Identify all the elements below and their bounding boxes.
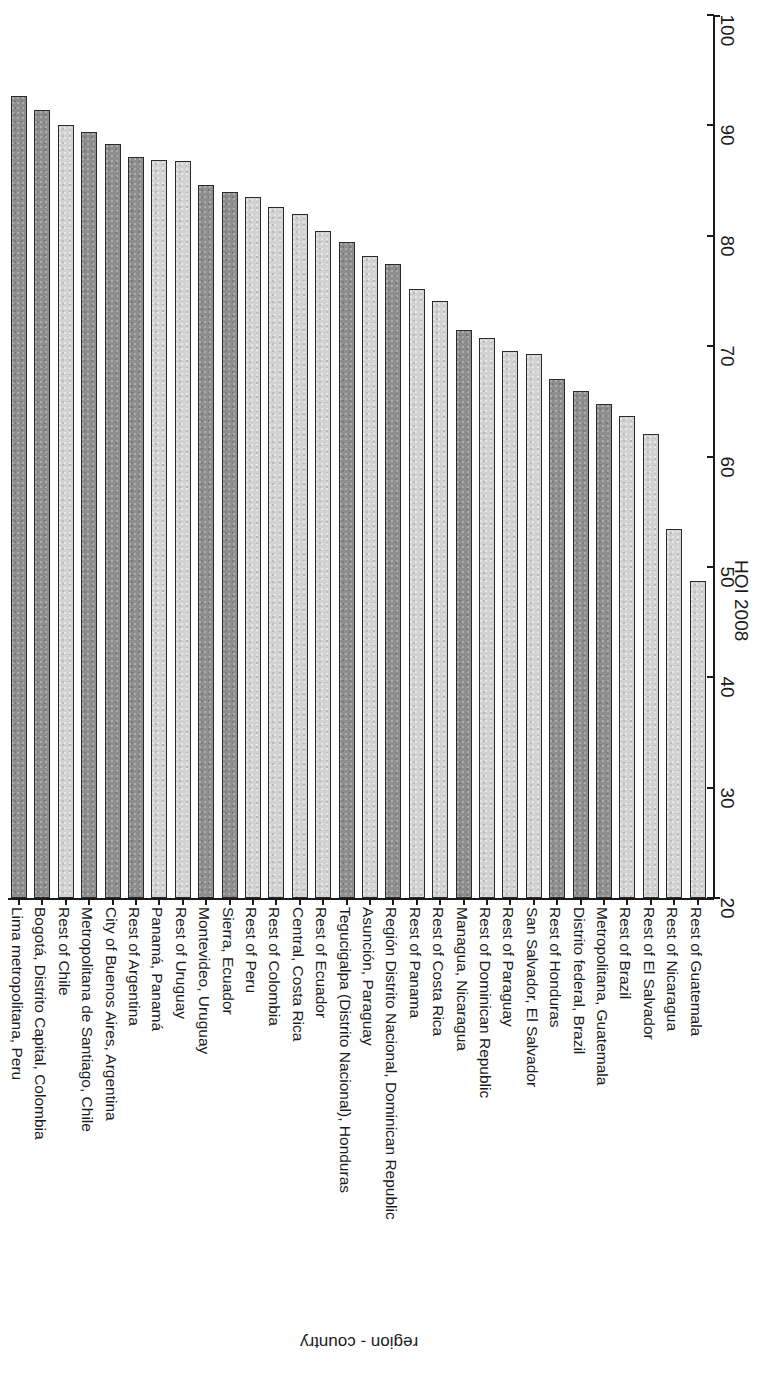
bar bbox=[315, 231, 331, 898]
category-axis-tick bbox=[322, 898, 324, 905]
category-axis-tick-label: Rest of Guatemala bbox=[688, 907, 704, 1036]
category-axis-tick-label: Sierra, Ecuador bbox=[220, 907, 236, 1015]
category-axis-tick-label: Bogotá, Distrito Capital, Colombia bbox=[33, 907, 49, 1140]
bar bbox=[58, 125, 74, 898]
value-axis-title: HOI 2008 bbox=[730, 560, 752, 641]
category-axis-tick bbox=[65, 898, 67, 905]
category-axis-tick-label: Rest of Costa Rica bbox=[431, 907, 447, 1036]
value-axis-tick-label: 40 bbox=[718, 677, 737, 698]
category-axis-tick bbox=[486, 898, 488, 905]
bar bbox=[456, 330, 472, 898]
category-axis-tick bbox=[626, 898, 628, 905]
category-axis-spine bbox=[8, 898, 714, 900]
plot-area bbox=[0, 0, 720, 900]
bar bbox=[362, 256, 378, 898]
category-axis-tick bbox=[205, 898, 207, 905]
category-axis-tick bbox=[650, 898, 652, 905]
category-axis-tick-label: City of Buenos Aires, Argentina bbox=[103, 907, 119, 1121]
category-axis-tick bbox=[182, 898, 184, 905]
category-axis-tick bbox=[580, 898, 582, 905]
bar bbox=[34, 110, 50, 898]
category-axis-tick bbox=[392, 898, 394, 905]
category-axis-tick-label: Rest of Argentina bbox=[127, 907, 143, 1026]
category-axis-tick-label: Rest of Panama bbox=[407, 907, 423, 1018]
category-axis-tick bbox=[463, 898, 465, 905]
value-axis-tick-label: 90 bbox=[718, 125, 737, 146]
value-axis-tick bbox=[707, 676, 714, 678]
category-axis-tick bbox=[533, 898, 535, 905]
category-axis-tick-label: Panamá, Panamá bbox=[150, 907, 166, 1031]
bar bbox=[81, 132, 97, 898]
bar bbox=[339, 242, 355, 898]
bar bbox=[573, 391, 589, 898]
bar bbox=[151, 160, 167, 898]
category-axis-tick bbox=[603, 898, 605, 905]
value-axis-tick bbox=[707, 235, 714, 237]
bar bbox=[596, 404, 612, 898]
bar bbox=[222, 192, 238, 898]
bar bbox=[666, 529, 682, 898]
category-axis-tick-label: Región Distrito Nacional, Dominican Repu… bbox=[384, 907, 400, 1220]
category-axis-tick-label: Rest of Colombia bbox=[267, 907, 283, 1026]
category-axis-tick-label: Rest of Brazil bbox=[618, 907, 634, 999]
bar bbox=[198, 185, 214, 898]
category-axis-tick bbox=[346, 898, 348, 905]
value-axis-tick-label: 30 bbox=[718, 787, 737, 808]
category-axis-tick-label: Metropolitana, Guatemala bbox=[595, 907, 611, 1085]
bar bbox=[409, 289, 425, 898]
category-axis-tick-label: Rest of Uruguay bbox=[173, 907, 189, 1019]
category-axis-tick-label: Lima metropolitana, Peru bbox=[10, 907, 26, 1080]
bar bbox=[502, 351, 518, 898]
category-axis-tick-label: Rest of Ecuador bbox=[314, 907, 330, 1018]
category-axis-tick-label: Tegucigalpa (Distrito Nacional), Hondura… bbox=[337, 907, 353, 1193]
category-axis-tick bbox=[229, 898, 231, 905]
bar bbox=[292, 214, 308, 898]
category-axis-tick-label: Rest of Nicaragua bbox=[665, 907, 681, 1031]
category-axis bbox=[0, 898, 720, 904]
value-axis-tick bbox=[707, 566, 714, 568]
bar bbox=[479, 338, 495, 898]
category-axis-tick bbox=[509, 898, 511, 905]
category-axis-tick bbox=[88, 898, 90, 905]
bar bbox=[245, 197, 261, 898]
category-axis-tick-label: Rest of Dominican Republic bbox=[478, 907, 494, 1098]
value-axis-tick bbox=[707, 345, 714, 347]
category-axis-tick bbox=[416, 898, 418, 905]
category-axis-tick-label: Montevideo, Uruguay bbox=[197, 907, 213, 1054]
category-axis-tick bbox=[369, 898, 371, 905]
category-axis-tick-label: Rest of Peru bbox=[244, 907, 260, 993]
chart-figure: 2030405060708090100 HOI 2008 region - co… bbox=[0, 0, 783, 1373]
category-axis-tick bbox=[18, 898, 20, 905]
value-axis-tick bbox=[707, 787, 714, 789]
category-axis-tick-label: Rest of Chile bbox=[56, 907, 72, 996]
category-axis-tick bbox=[112, 898, 114, 905]
category-axis-tick-label: Metropolitana de Santiago, Chile bbox=[80, 907, 96, 1132]
bar bbox=[619, 416, 635, 898]
category-axis-tick bbox=[299, 898, 301, 905]
category-axis-tick-label: Rest of Honduras bbox=[548, 907, 564, 1028]
category-axis-tick bbox=[135, 898, 137, 905]
category-axis-tick bbox=[673, 898, 675, 905]
value-axis-tick-label: 70 bbox=[718, 346, 737, 367]
bar bbox=[432, 301, 448, 898]
category-axis-tick bbox=[556, 898, 558, 905]
category-axis-tick bbox=[275, 898, 277, 905]
category-axis-tick-label: Central, Costa Rica bbox=[290, 907, 306, 1041]
value-axis-tick-label: 100 bbox=[718, 15, 737, 47]
value-axis-tick-label: 60 bbox=[718, 456, 737, 477]
bar bbox=[549, 379, 565, 898]
bar bbox=[11, 96, 27, 898]
category-axis-tick-label: Distrito federal, Brazil bbox=[571, 907, 587, 1054]
value-axis-tick bbox=[707, 14, 714, 16]
category-axis-tick bbox=[697, 898, 699, 905]
category-axis-tick bbox=[252, 898, 254, 905]
category-axis-tick-label: Asunción, Paraguay bbox=[361, 907, 377, 1046]
bar bbox=[268, 207, 284, 898]
bar bbox=[385, 264, 401, 898]
value-axis-tick-label: 20 bbox=[718, 898, 737, 919]
bar bbox=[128, 157, 144, 898]
category-axis-title: region - country bbox=[300, 1332, 418, 1352]
category-axis-tick-label: Managua, Nicaragua bbox=[454, 907, 470, 1051]
bar bbox=[526, 354, 542, 898]
category-axis-tick-label: Rest of Paraguay bbox=[501, 907, 517, 1027]
